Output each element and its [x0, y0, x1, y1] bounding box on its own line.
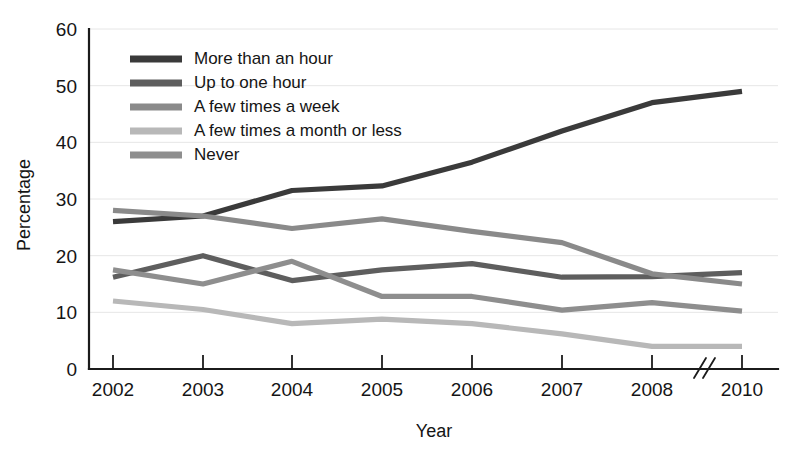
- y-tick-labels: 0102030405060: [56, 19, 77, 380]
- chart-canvas: 0102030405060 Percentage 200220032004200…: [0, 0, 786, 456]
- y-tick-label-30: 30: [56, 189, 77, 210]
- x-tick-label-2007: 2007: [541, 379, 583, 400]
- y-axis: 0102030405060 Percentage: [14, 19, 89, 380]
- series-line-up-to-one-hour: [113, 256, 742, 281]
- legend-label-more-than-an-hour: More than an hour: [194, 49, 333, 68]
- legend-label-up-to-one-hour: Up to one hour: [194, 73, 307, 92]
- chart-legend: More than an hourUp to one hourA few tim…: [130, 49, 402, 164]
- x-tick-label-2010: 2010: [721, 379, 763, 400]
- x-tick-label-2003: 2003: [182, 379, 224, 400]
- x-tick-marks: [113, 355, 742, 369]
- line-chart: 0102030405060 Percentage 200220032004200…: [0, 0, 786, 456]
- series-line-a-few-times-a-month-or-less: [113, 301, 742, 346]
- series-line-a-few-times-a-week: [113, 210, 742, 284]
- y-axis-title: Percentage: [14, 159, 34, 251]
- y-tick-label-0: 0: [66, 359, 77, 380]
- x-tick-label-2008: 2008: [631, 379, 673, 400]
- x-tick-label-2002: 2002: [92, 379, 134, 400]
- x-axis: 20022003200420052006200720082010 Year: [89, 355, 778, 441]
- legend-label-a-few-times-a-week: A few times a week: [194, 97, 340, 116]
- legend-label-never: Never: [194, 145, 240, 164]
- x-tick-labels: 20022003200420052006200720082010: [92, 379, 763, 400]
- x-tick-label-2006: 2006: [451, 379, 493, 400]
- x-tick-label-2004: 2004: [271, 379, 314, 400]
- y-tick-label-50: 50: [56, 76, 77, 97]
- x-tick-label-2005: 2005: [361, 379, 403, 400]
- y-tick-label-20: 20: [56, 246, 77, 267]
- y-tick-label-60: 60: [56, 19, 77, 40]
- legend-label-a-few-times-a-month-or-less: A few times a month or less: [194, 121, 402, 140]
- y-tick-label-40: 40: [56, 132, 77, 153]
- x-axis-title: Year: [416, 421, 452, 441]
- y-tick-label-10: 10: [56, 302, 77, 323]
